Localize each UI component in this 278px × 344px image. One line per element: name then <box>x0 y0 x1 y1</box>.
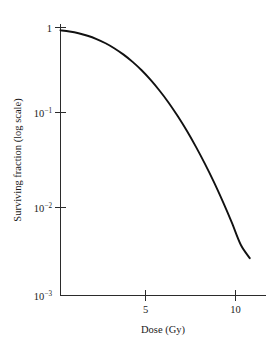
y-tick-exponent-1e-2: −2 <box>44 202 52 210</box>
y-tick-label-1: 1 <box>47 23 52 34</box>
y-tick-exponent-1e-1: −1 <box>44 107 52 115</box>
y-tick-mantissa-1e-1: 10 <box>34 108 45 119</box>
x-axis-title: Dose (Gy) <box>141 324 186 336</box>
y-tick-label-1e-2: 10−2 <box>34 202 53 214</box>
y-tick-label-1e-1: 10−1 <box>34 107 53 119</box>
x-tick-label-5: 5 <box>143 304 148 315</box>
y-tick-mantissa-1e-3: 10 <box>34 291 45 302</box>
x-tick-label-10: 10 <box>230 304 241 315</box>
survival-curve-plot: 1 10−1 10−2 10−3 5 10 Dose (Gy) Survivin… <box>0 0 278 344</box>
y-axis-title: Surviving fraction (log scale) <box>12 98 24 222</box>
cell-survival-curve-figure: 1 10−1 10−2 10−3 5 10 Dose (Gy) Survivin… <box>0 0 278 344</box>
y-tick-mantissa-1e-2: 10 <box>34 203 45 214</box>
y-tick-exponent-1e-3: −3 <box>44 290 52 298</box>
y-tick-label-1e-3: 10−3 <box>34 290 53 302</box>
survival-curve-line <box>61 30 250 258</box>
